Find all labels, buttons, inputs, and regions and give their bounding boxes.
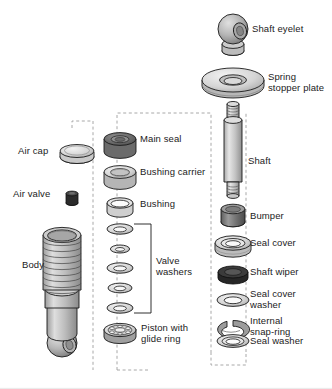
part-shaft-wiper[interactable] (218, 266, 248, 284)
label-shaft-wiper: Shaft wiper (250, 267, 299, 278)
part-seal-cover-washer[interactable] (217, 294, 249, 307)
part-main-seal[interactable] (104, 133, 136, 159)
label-seal-cover-washer-1: Seal cover (250, 289, 296, 300)
label-valve-washers-2: washers (156, 267, 192, 278)
part-seal-washer[interactable] (217, 335, 249, 348)
label-snap-ring-1: Internal (250, 316, 283, 327)
label-seal-cover-washer-2: washer (250, 300, 281, 311)
label-bumper: Bumper (250, 211, 284, 222)
part-shaft[interactable] (224, 102, 242, 199)
label-air-valve: Air valve (13, 189, 50, 200)
label-main-seal: Main seal (140, 134, 182, 145)
valve-washer-5[interactable] (107, 303, 133, 313)
part-seal-cover[interactable] (215, 236, 251, 257)
label-piston-2: glide ring (141, 334, 181, 345)
valve-washer-2[interactable] (110, 245, 129, 253)
label-spring-stopper-2: stopper plate (268, 83, 324, 94)
part-air-valve[interactable] (66, 191, 78, 205)
label-air-cap: Air cap (18, 146, 48, 157)
label-piston-1: Piston with (141, 323, 188, 334)
label-bushing-carrier: Bushing carrier (140, 167, 205, 178)
part-spring-stopper-plate[interactable] (202, 68, 264, 98)
dashed-box-right (211, 352, 246, 365)
dashed-box-air-cap (72, 121, 93, 128)
label-seal-washer: Seal washer (250, 336, 303, 347)
label-seal-cover: Seal cover (250, 238, 296, 249)
label-spring-stopper-1: Spring (268, 72, 296, 83)
label-shaft: Shaft (248, 156, 271, 167)
valve-washer-3[interactable] (107, 263, 133, 273)
valve-washer-4[interactable] (108, 283, 132, 293)
part-bumper[interactable] (221, 204, 245, 227)
part-piston-with-glide-ring[interactable] (104, 323, 136, 343)
label-shaft-eyelet: Shaft eyelet (252, 24, 303, 35)
part-body[interactable] (43, 227, 81, 357)
group-valve-washers[interactable] (107, 224, 151, 313)
part-bushing[interactable] (107, 198, 133, 217)
valve-washer-1[interactable] (107, 224, 133, 234)
label-bushing: Bushing (140, 199, 175, 210)
part-air-cap[interactable] (60, 145, 94, 164)
label-body: Body (22, 260, 44, 271)
label-valve-washers-1: Valve (156, 256, 180, 267)
valve-washers-bracket (134, 224, 151, 313)
part-bushing-carrier[interactable] (104, 166, 136, 190)
part-shaft-eyelet[interactable] (218, 14, 248, 55)
